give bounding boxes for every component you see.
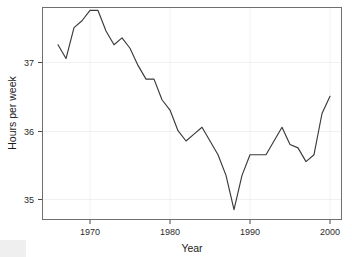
x-axis-title: Year xyxy=(181,242,203,254)
x-tick-label-1990: 1990 xyxy=(240,227,260,237)
y-axis-title: Hours per week xyxy=(6,75,18,149)
y-tick-label-36: 36 xyxy=(24,127,34,137)
x-tick-label-2000: 2000 xyxy=(320,227,340,237)
x-tick-label-1970: 1970 xyxy=(80,227,100,237)
y-tick-label-37: 37 xyxy=(24,58,34,68)
line-chart-svg: 37 36 35 1970 1980 1990 2000 Hours per w… xyxy=(0,0,352,257)
scan-artifact xyxy=(0,240,26,257)
chart-background xyxy=(0,0,352,257)
chart-container: 37 36 35 1970 1980 1990 2000 Hours per w… xyxy=(0,0,352,257)
x-tick-label-1980: 1980 xyxy=(160,227,180,237)
y-tick-label-35: 35 xyxy=(24,195,34,205)
